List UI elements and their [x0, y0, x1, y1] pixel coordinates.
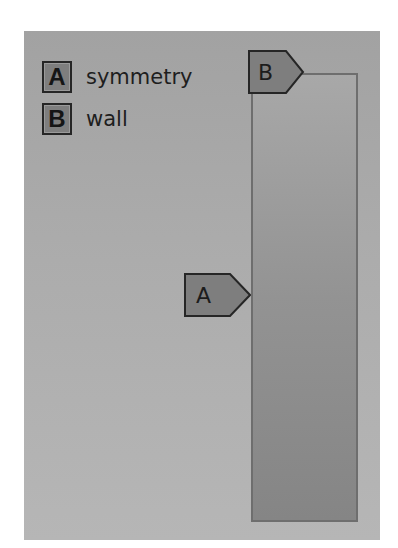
- tag-shape-icon: [248, 50, 305, 94]
- legend-label-wall: wall: [86, 107, 128, 131]
- tag-a-label: A: [196, 273, 211, 317]
- boundary-tag-a[interactable]: A: [184, 273, 251, 317]
- tag-b-label: B: [258, 50, 273, 94]
- legend-key-a: A: [42, 61, 72, 93]
- legend-key-b: B: [42, 103, 72, 135]
- tag-shape-icon: [184, 273, 251, 317]
- legend-item-wall: B wall: [42, 101, 128, 137]
- legend-label-symmetry: symmetry: [86, 65, 193, 89]
- domain-rectangle: [251, 73, 358, 522]
- legend-item-symmetry: A symmetry: [42, 59, 193, 95]
- boundary-tag-b[interactable]: B: [248, 50, 305, 94]
- boundary-diagram-panel: A symmetry B wall B A: [24, 31, 380, 540]
